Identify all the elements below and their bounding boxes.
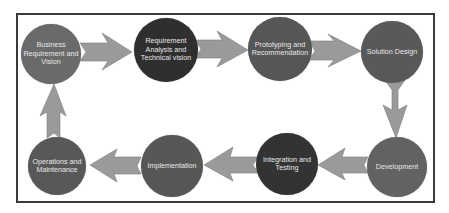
node-requirement-analysis: Requirement Analysis and Technical visio… — [134, 18, 198, 82]
node-label: Prototyping and Recommendation — [248, 41, 312, 58]
node-development: Development — [367, 137, 427, 197]
node-business-requirement: Business Requirement and Vision — [21, 24, 81, 84]
node-label: Solution Design — [365, 48, 419, 56]
node-integration-testing: Integration and Testing — [256, 133, 318, 195]
arrow-right-icon — [309, 34, 361, 67]
arrow-left-icon — [204, 147, 258, 181]
node-label: Development — [374, 163, 420, 171]
arrow-left-icon — [318, 148, 368, 180]
node-label: Integration and Testing — [256, 156, 318, 173]
node-label: Operations and Maintenance — [28, 158, 86, 175]
arrow-down-icon — [383, 80, 407, 138]
arrow-left-icon — [90, 149, 141, 182]
node-label: Implementation — [145, 162, 198, 170]
node-label: Business Requirement and Vision — [21, 41, 81, 66]
node-implementation: Implementation — [141, 135, 203, 197]
arrow-right-icon — [80, 33, 132, 70]
node-solution-design: Solution Design — [361, 21, 423, 83]
arrow-up-icon — [40, 84, 66, 138]
node-prototyping: Prototyping and Recommendation — [248, 17, 312, 81]
node-label: Requirement Analysis and Technical visio… — [134, 37, 198, 62]
arrow-right-icon — [195, 31, 248, 67]
node-operations-maintenance: Operations and Maintenance — [28, 137, 86, 195]
